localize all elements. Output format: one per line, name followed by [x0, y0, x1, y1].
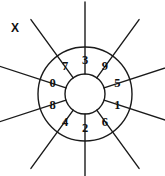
x-axis-label: X: [11, 22, 19, 34]
sector-digit: 9: [102, 59, 108, 73]
radial-spoke: [0, 66, 66, 88]
wheel-diagram-svg: 3951624807: [0, 0, 165, 176]
sector-digit: 4: [62, 115, 69, 129]
radial-spokes-group: [0, 2, 165, 176]
wheel-diagram-figure: 3951624807 X: [0, 0, 165, 176]
sector-digit: 0: [50, 76, 56, 90]
sector-digit: 3: [82, 53, 88, 67]
sector-digit: 1: [114, 98, 120, 112]
radial-spoke: [104, 66, 165, 88]
sector-digit: 6: [102, 115, 108, 129]
radial-spoke: [104, 100, 165, 122]
sector-digit: 2: [82, 121, 88, 135]
sector-digit: 8: [50, 98, 56, 112]
sector-digits-group: 3951624807: [50, 53, 121, 135]
sector-digit: 7: [62, 59, 68, 73]
inner-hub-circle: [65, 74, 105, 114]
radial-spoke: [0, 100, 66, 122]
sector-digit: 5: [114, 76, 120, 90]
